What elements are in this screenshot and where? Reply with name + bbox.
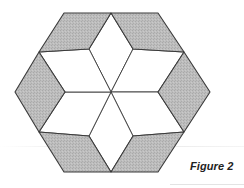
- figure-caption: Figure 2: [190, 160, 234, 172]
